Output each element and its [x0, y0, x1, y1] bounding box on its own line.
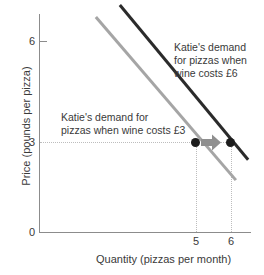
x-axis-line [39, 232, 251, 233]
y-axis-tick-label-6: 6 [21, 36, 35, 47]
x-axis-tick-label-5: 5 [189, 236, 203, 247]
x-axis-title: Quantity (pizzas per month) [96, 253, 231, 265]
demand-curve-chart: 6 3 0 5 6 Price (pounds per pizza) Quant… [0, 0, 264, 275]
origin-label: 0 [21, 227, 35, 238]
y-axis-line [39, 14, 40, 233]
annotation-demand-wine3: Katie's demand for pizzas when wine cost… [61, 111, 185, 137]
y-axis-title: Price (pounds per pizza) [20, 51, 32, 201]
guide-line-quantity-5 [196, 143, 197, 232]
demand-shift-arrow-icon [201, 134, 221, 151]
data-point-quantity-6 [226, 138, 235, 147]
x-axis-tick-label-6: 6 [224, 236, 238, 247]
data-point-quantity-5 [191, 138, 200, 147]
annotation-demand-wine6: Katie's demand for pizzas when wine cost… [174, 41, 247, 80]
guide-line-quantity-6 [231, 143, 232, 232]
y-axis-tick-6 [40, 41, 47, 42]
